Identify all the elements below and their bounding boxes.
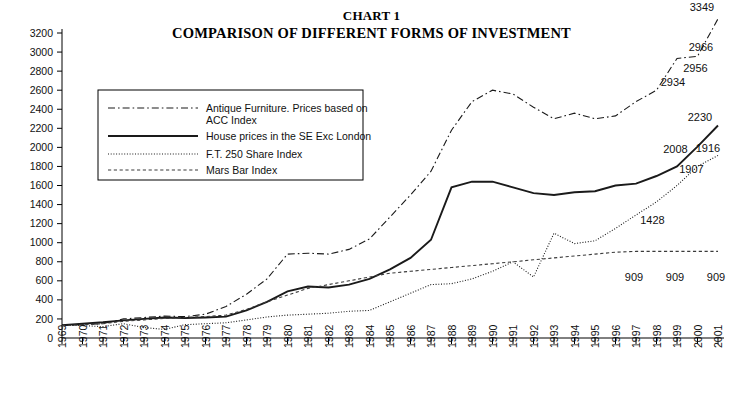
x-axis-tick-label: 1998: [651, 324, 663, 348]
series-line: [62, 251, 718, 325]
x-axis-tick-label: 1995: [589, 324, 601, 348]
data-point-label: 2230: [688, 111, 712, 123]
y-axis-tick-label: 1800: [30, 160, 54, 172]
y-axis-tick-label: 1200: [30, 217, 54, 229]
data-point-label: 2966: [689, 41, 713, 53]
legend-item-label[interactable]: Antique Furniture. Prices based on: [206, 102, 368, 114]
data-point-label: 1428: [640, 214, 664, 226]
x-axis-tick-label: 1981: [302, 324, 314, 348]
x-axis-tick-label: 1977: [220, 324, 232, 348]
y-axis-tick-label: 400: [35, 293, 53, 305]
y-axis-tick-label: 1000: [30, 236, 54, 248]
data-point-label: 909: [707, 271, 725, 283]
legend-item-label[interactable]: F.T. 250 Share Index: [206, 148, 303, 160]
x-axis-tick-label: 1982: [323, 324, 335, 348]
x-axis-tick-label: 1999: [671, 324, 683, 348]
y-axis-tick-label: 2400: [30, 103, 54, 115]
data-point-label: 1916: [696, 142, 720, 154]
x-axis-tick-label: 1984: [364, 324, 376, 348]
legend-item-label[interactable]: Mars Bar Index: [206, 164, 278, 176]
data-point-label: 3349: [690, 1, 714, 13]
x-axis-tick-label: 1970: [77, 324, 89, 348]
y-axis-tick-label: 600: [35, 274, 53, 286]
y-axis-tick-label: 3000: [30, 46, 54, 58]
y-axis-tick-label: 2800: [30, 65, 54, 77]
y-axis-tick-label: 2000: [30, 141, 54, 153]
x-axis-tick-label: 1988: [446, 324, 458, 348]
x-axis-tick-label: 1976: [200, 324, 212, 348]
x-axis-tick-label: 1972: [118, 324, 130, 348]
legend-item-label-cont: ACC Index: [206, 114, 258, 126]
data-point-label: 1907: [679, 163, 703, 175]
x-axis-tick-label: 1983: [343, 324, 355, 348]
chart-container: CHART 1 COMPARISON OF DIFFERENT FORMS OF…: [0, 0, 743, 399]
x-axis-tick-label: 1980: [282, 324, 294, 348]
y-axis-tick-label: 2200: [30, 122, 54, 134]
y-axis-tick-label: 2600: [30, 84, 54, 96]
data-point-label: 2934: [661, 76, 685, 88]
y-axis-tick-label: 200: [35, 313, 53, 325]
x-axis-tick-label: 2001: [712, 324, 724, 348]
data-labels-group: 3349296629562934223020081916190714289099…: [625, 1, 725, 284]
data-point-label: 909: [666, 271, 684, 283]
x-axis-tick-label: 1990: [487, 324, 499, 348]
y-axis-tick-label: 3200: [30, 27, 54, 39]
x-axis-tick-label: 1987: [425, 324, 437, 348]
x-axis-tick-label: 1992: [528, 324, 540, 348]
x-axis-tick-label: 1969: [56, 324, 68, 348]
chart-plot: 0200400600800100012001400160018002000220…: [0, 0, 743, 399]
x-axis-tick-label: 1994: [569, 324, 581, 348]
data-point-label: 2008: [663, 143, 687, 155]
x-axis: 1969197019711972197319741975197619771978…: [56, 324, 724, 348]
x-axis-tick-label: 2000: [692, 324, 704, 348]
chart-legend: Antique Furniture. Prices based onACC In…: [98, 90, 371, 180]
series-line: [62, 155, 718, 329]
x-axis-tick-label: 1996: [610, 324, 622, 348]
y-axis-tick-label: 1600: [30, 179, 54, 191]
legend-item-label[interactable]: House prices in the SE Exc London: [206, 130, 371, 142]
x-axis-tick-label: 1993: [548, 324, 560, 348]
y-axis-tick-label: 800: [35, 255, 53, 267]
y-axis: 0200400600800100012001400160018002000220…: [30, 27, 62, 344]
data-point-label: 909: [625, 271, 643, 283]
x-axis-tick-label: 1997: [630, 324, 642, 348]
x-axis-tick-label: 1974: [159, 324, 171, 348]
x-axis-tick-label: 1978: [241, 324, 253, 348]
x-axis-tick-label: 1975: [179, 324, 191, 348]
x-axis-tick-label: 1986: [405, 324, 417, 348]
data-point-label: 2956: [683, 62, 707, 74]
y-axis-tick-label: 1400: [30, 198, 54, 210]
x-axis-tick-label: 1989: [466, 324, 478, 348]
x-axis-tick-label: 1979: [261, 324, 273, 348]
x-axis-tick-label: 1991: [507, 324, 519, 348]
x-axis-tick-label: 1985: [384, 324, 396, 348]
x-axis-tick-label: 1971: [97, 324, 109, 348]
y-axis-tick-label: 0: [47, 332, 53, 344]
